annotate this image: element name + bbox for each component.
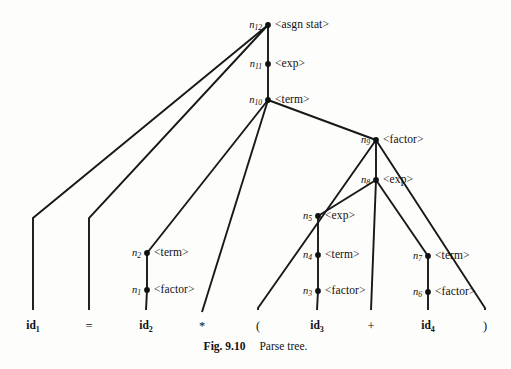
node-symbol-label: <factor> [325,285,366,297]
parse-tree-canvas [0,0,511,369]
terminal-leaf-label: ) [483,320,487,333]
tree-edge [146,290,147,310]
figure-number: Fig. 9.10 [204,340,246,352]
tree-edge [376,180,428,256]
tree-node-dot [265,97,271,103]
node-symbol-label: <factor> [154,284,195,296]
tree-node-dot [373,137,379,143]
tree-node-dot [315,288,321,294]
figure-caption: Fig. 9.10Parse tree. [0,340,511,352]
tree-edge [371,180,376,310]
node-id-label: n7 [413,251,422,262]
terminal-leaf-label: id1 [26,320,40,332]
terminal-leaf-label: ( [256,320,260,333]
tree-edge [147,100,268,253]
node-id-label: n4 [303,250,312,261]
terminal-leaf-label: id3 [310,320,324,332]
node-id-label: n3 [303,286,312,297]
terminal-leaf-label: = [85,320,92,333]
terminal-leaf-label: id2 [139,320,153,332]
node-id-label: n10 [249,95,262,106]
node-symbol-label: <factor> [383,134,424,146]
node-id-label: n8 [361,175,370,186]
node-symbol-label: <term> [275,94,310,106]
tree-node-dot [315,252,321,258]
tree-node-dot [144,250,150,256]
node-id-label: n9 [361,135,370,146]
tree-node-dot [425,289,431,295]
terminal-leaf-label: + [367,320,374,333]
parse-tree-figure: n12<asgn stat>n11<exp>n10<term>n9<factor… [0,0,511,369]
node-symbol-label: <term> [435,250,470,262]
node-symbol-label: <term> [325,249,360,261]
node-id-label: n12 [249,20,262,31]
terminal-leaf-label: * [199,320,205,333]
tree-node-dot [265,61,271,67]
node-symbol-label: <asgn stat> [275,19,329,31]
node-id-label: n5 [303,211,312,222]
node-symbol-label: <exp> [275,58,305,70]
node-symbol-label: <exp> [383,174,413,186]
tree-edge [202,100,268,312]
node-id-label: n1 [132,285,141,296]
tree-node-dot [265,22,271,28]
tree-edge [268,100,376,140]
node-symbol-label: <exp> [325,210,355,222]
node-id-label: n2 [132,248,141,259]
terminal-leaf-label: id4 [421,320,435,332]
node-symbol-label: <factor> [435,286,476,298]
node-id-label: n6 [413,287,422,298]
node-id-label: n11 [250,59,262,70]
figure-caption-text: Parse tree. [259,340,307,352]
tree-node-dot [373,177,379,183]
tree-edge [33,25,268,310]
node-symbol-label: <term> [154,247,189,259]
tree-node-dot [315,213,321,219]
tree-node-dot [425,253,431,259]
tree-node-dot [144,287,150,293]
tree-edge [89,25,268,310]
